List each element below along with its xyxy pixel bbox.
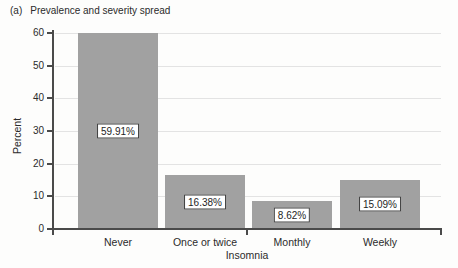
x-category-label-monthly: Monthly bbox=[274, 236, 311, 248]
value-label-once-or-twice: 16.38% bbox=[184, 195, 226, 210]
bar-chart: Percent Insomnia 010203040506059.91%Neve… bbox=[0, 0, 458, 268]
value-label-monthly: 8.62% bbox=[274, 207, 310, 222]
y-tick-label-20: 20 bbox=[24, 158, 44, 170]
value-label-never: 59.91% bbox=[97, 124, 139, 139]
x-category-label-never: Never bbox=[104, 236, 132, 248]
bar-once-or-twice: 16.38% bbox=[165, 175, 245, 229]
x-tick-mid bbox=[246, 230, 248, 235]
figure: (a)Prevalence and severity spread Percen… bbox=[0, 0, 458, 268]
y-tick-label-40: 40 bbox=[24, 92, 44, 104]
value-label-weekly: 15.09% bbox=[359, 197, 401, 212]
y-tick-label-50: 50 bbox=[24, 60, 44, 72]
x-axis-title: Insomnia bbox=[226, 249, 269, 261]
y-axis-line bbox=[52, 30, 54, 235]
y-tick-label-60: 60 bbox=[24, 27, 44, 39]
bar-never: 59.91% bbox=[78, 33, 158, 229]
y-tick-label-30: 30 bbox=[24, 125, 44, 137]
y-axis-title: Percent bbox=[11, 118, 23, 154]
x-tick-end bbox=[440, 230, 442, 235]
y-tick-label-0: 0 bbox=[24, 223, 44, 235]
bar-weekly: 15.09% bbox=[340, 180, 420, 229]
x-category-label-once-or-twice: Once or twice bbox=[173, 236, 237, 248]
y-tick-label-10: 10 bbox=[24, 190, 44, 202]
bar-monthly: 8.62% bbox=[252, 201, 332, 229]
x-category-label-weekly: Weekly bbox=[363, 236, 397, 248]
